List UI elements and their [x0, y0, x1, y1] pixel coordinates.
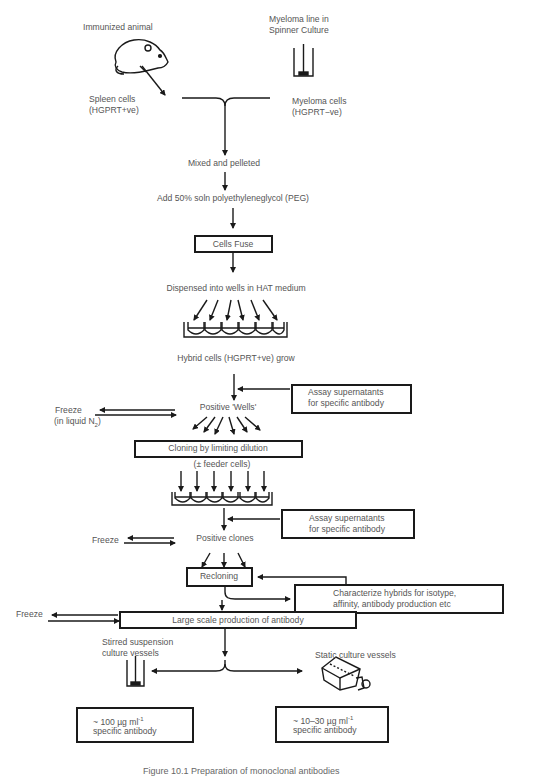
characterize-line-2: affinity, antibody production etc [333, 599, 451, 610]
assay-1-line-2: for specific antibody [308, 398, 384, 409]
freeze-1-label: Freeze [55, 405, 82, 416]
dispensed-label: Dispensed into wells in HAT medium [166, 283, 305, 294]
hybrid-cells-label: Hybrid cells (HGPRT+ve) grow [177, 353, 295, 364]
positive-wells-label: Positive 'Wells' [200, 402, 257, 413]
positive-clones-label: Positive clones [196, 533, 253, 544]
static-vessels-label: Static culture vessels [315, 650, 396, 661]
static-yield-line-2: specific antibody [293, 725, 357, 736]
assay-2-line-1: Assay supernatants [309, 513, 384, 524]
characterize-line-1: Characterize hybrids for isotype, [333, 588, 456, 599]
feeder-cells-label: (± feeder cells) [194, 459, 251, 470]
myeloma-line-label-2: Spinner Culture [269, 25, 329, 36]
stirred-vessels-line-1: Stirred suspension [102, 637, 173, 648]
mouse-icon [115, 40, 168, 74]
stirred-vessel-icon [127, 656, 144, 686]
cloning-label: Cloning by limiting dilution [168, 443, 267, 454]
freeze-3-label: Freeze [16, 609, 43, 620]
stirred-vessels-line-2: culture vessels [102, 648, 159, 659]
spleen-cells-hgprt-label: (HGPRT+ve) [89, 105, 139, 116]
assay-2-line-2: for specific antibody [309, 524, 385, 535]
spleen-cells-label: Spleen cells [89, 94, 135, 105]
flowchart-lines [0, 0, 543, 776]
cells-fuse-label: Cells Fuse [213, 239, 254, 250]
immunized-animal-label: Immunized animal [83, 22, 153, 33]
large-scale-label: Large scale production of antibody [172, 615, 303, 626]
recloning-label: Recloning [200, 571, 238, 582]
figure-caption: Figure 10.1 Preparation of monoclonal an… [143, 766, 340, 776]
myeloma-cells-label: Myeloma cells [292, 96, 346, 107]
spinner-flask-icon [294, 44, 313, 76]
peg-label: Add 50% soln polyethyleneglycol (PEG) [157, 193, 309, 204]
static-flask-icon [322, 657, 370, 690]
myeloma-cells-hgprt-label: (HGPRT−ve) [292, 107, 342, 118]
assay-1-line-1: Assay supernatants [308, 387, 383, 398]
well-plate-icon [184, 322, 287, 337]
freeze-1-sub-label: (in liquid N2) [54, 416, 101, 431]
stirred-yield-line-2: specific antibody [93, 726, 157, 737]
freeze-2-label: Freeze [92, 535, 119, 546]
mixed-pelleted-label: Mixed and pelleted [188, 158, 260, 169]
well-plate-icon [172, 492, 272, 505]
myeloma-line-label-1: Myeloma line in [269, 14, 329, 25]
